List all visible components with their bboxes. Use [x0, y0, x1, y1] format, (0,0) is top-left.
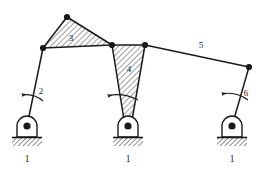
diagram-canvas: 1 1 1 2 3	[0, 0, 269, 169]
joint-D	[142, 42, 148, 48]
ground-support-right: 1	[217, 116, 247, 164]
joint-B	[64, 14, 70, 20]
ground-pivot-right	[228, 122, 235, 129]
ground-support-middle: 1	[113, 116, 143, 164]
joint-E	[246, 64, 252, 70]
ground-hatch-right	[217, 138, 247, 146]
link-4-label: 4	[127, 64, 132, 74]
link-3-label: 3	[69, 33, 74, 43]
link-2-label: 2	[39, 86, 44, 96]
ground-label-right: 1	[230, 154, 235, 164]
ground-hatch-left	[12, 138, 42, 146]
link-5	[145, 45, 249, 67]
link-4-hatch-fill	[112, 45, 145, 126]
link-6-label: 6	[244, 88, 249, 98]
ground-support-left: 1	[12, 116, 42, 164]
link-3	[43, 17, 112, 48]
ground-label-middle: 1	[126, 154, 131, 164]
link-5-label: 5	[199, 40, 204, 50]
ground-pivot-left	[23, 122, 30, 129]
link-4	[112, 45, 145, 126]
linkage-diagram: 1 1 1 2 3	[0, 0, 269, 169]
joint-C	[109, 42, 115, 48]
ground-pivot-middle	[124, 122, 131, 129]
ground-label-left: 1	[25, 154, 30, 164]
joint-A	[40, 45, 46, 51]
ground-hatch-middle	[113, 138, 143, 146]
link-3-hatch-fill	[43, 17, 112, 48]
link-5-bar	[145, 45, 249, 67]
